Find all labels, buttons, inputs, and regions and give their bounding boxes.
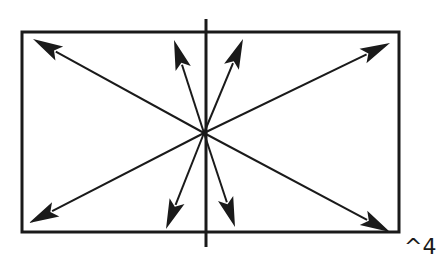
arrow-down-left-far-shaft [52, 133, 204, 211]
arrow-up-right-near-shaft [204, 63, 233, 133]
arrow-down-left-far-head-icon [29, 202, 59, 223]
arrow-up-right-far-head-icon [360, 43, 390, 63]
corner-label: ^4 [404, 236, 436, 258]
arrow-down-right-far-head-icon [360, 211, 390, 232]
arrow-up-right-near-head-icon [224, 39, 243, 70]
arrow-up-left-far-shaft [56, 52, 204, 133]
arrow-up-right-far-shaft [204, 54, 367, 133]
arrow-down-left-near-shaft [176, 133, 204, 205]
rectangle-frame [22, 32, 399, 232]
arrow-up-left-far-head-icon [33, 39, 63, 60]
arrow-down-left-near-head-icon [166, 198, 184, 229]
